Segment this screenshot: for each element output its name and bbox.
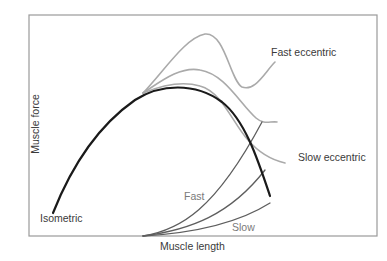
curve-fast-eccentric	[143, 34, 275, 93]
curve-isometric	[53, 88, 270, 214]
label-slow-eccentric: Slow eccentric	[298, 152, 366, 163]
label-isometric: Isometric	[40, 213, 83, 224]
x-axis-label: Muscle length	[160, 241, 225, 252]
label-slow: Slow	[232, 222, 255, 233]
curve-fast	[143, 122, 262, 236]
label-fast: Fast	[184, 191, 204, 202]
curve-slow-eccentric	[143, 84, 285, 163]
label-fast-eccentric: Fast eccentric	[271, 47, 336, 58]
y-axis-label: Muscle force	[30, 94, 41, 154]
